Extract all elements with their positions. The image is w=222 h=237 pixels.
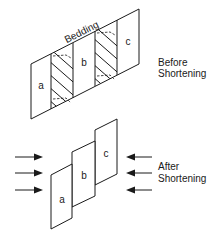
after-block-label-b: b bbox=[81, 170, 87, 181]
after-block-label-c: c bbox=[104, 148, 109, 159]
block-label-a: a bbox=[38, 80, 44, 91]
hatch-line bbox=[84, 56, 124, 91]
after-caption-line2: Shortening bbox=[158, 173, 206, 184]
block-label-b: b bbox=[81, 57, 87, 68]
arrow-left-icon bbox=[126, 154, 152, 161]
hatch-line bbox=[40, 66, 80, 101]
hatch-line bbox=[40, 53, 80, 88]
hatch-line bbox=[84, 43, 124, 78]
arrow-right-icon bbox=[15, 187, 43, 194]
right-arrows bbox=[126, 154, 152, 194]
after-shortening-diagram: a b c bbox=[15, 119, 206, 229]
shortening-diagram: a b c Bedding Before Shortening a b c bbox=[0, 0, 222, 237]
hatched-strip-1 bbox=[40, 40, 80, 127]
arrow-left-icon bbox=[126, 187, 152, 194]
arrow-right-icon bbox=[15, 170, 43, 177]
hatch-line bbox=[84, 30, 124, 65]
before-caption-line1: Before bbox=[158, 57, 188, 68]
arrow-left-icon bbox=[126, 170, 152, 177]
after-caption-line1: After bbox=[158, 161, 180, 172]
dashed-marker bbox=[97, 32, 115, 35]
hatch-line bbox=[40, 40, 80, 75]
block-label-c: c bbox=[126, 36, 131, 47]
before-shortening-diagram: a b c Bedding Before Shortening bbox=[31, 9, 206, 127]
left-arrows bbox=[15, 154, 43, 194]
hatch-line bbox=[40, 79, 80, 114]
dashed-marker bbox=[53, 55, 71, 58]
after-block-label-a: a bbox=[59, 194, 65, 205]
before-caption-line2: Shortening bbox=[158, 68, 206, 79]
arrow-right-icon bbox=[15, 154, 43, 161]
